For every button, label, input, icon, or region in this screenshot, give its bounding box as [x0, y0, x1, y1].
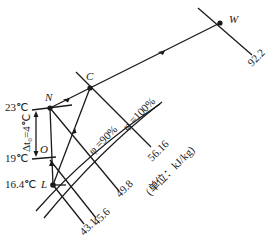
rh-label-90: φ =90%: [86, 123, 120, 157]
process-line-w-c: [90, 23, 220, 88]
point-w: [217, 20, 222, 25]
label-l: L: [40, 178, 47, 190]
process-line-c-l: [53, 88, 90, 185]
label-w: W: [229, 13, 239, 25]
temp-n: 23℃: [5, 101, 28, 113]
enthalpy-line-49-8: [50, 108, 119, 191]
process-line-l-n: [50, 108, 53, 185]
point-n: [47, 105, 52, 110]
psychrometric-diagram: W C N O L 23℃ 19℃ 16.4℃ Δt₀=4℃ 92.2 56.1…: [0, 0, 274, 243]
point-l: [50, 182, 56, 188]
arrow-down-icon: [34, 151, 39, 157]
rh-curve-100: [44, 102, 162, 218]
enthalpy-49-8: 49.8: [113, 177, 135, 199]
temp-o: 19℃: [5, 152, 28, 164]
label-o: O: [40, 143, 48, 155]
point-c: [87, 85, 92, 90]
enthalpy-line-43-1: [53, 185, 84, 224]
temp-l: 16.4℃: [5, 178, 36, 190]
rh-label-100: φ =100%: [120, 95, 157, 132]
delta-t-label: Δt₀=4℃: [20, 114, 32, 152]
label-n: N: [44, 91, 53, 103]
enthalpy-56-16: 56.16: [145, 137, 171, 163]
label-c: C: [86, 70, 94, 82]
arrow-up-icon: [34, 111, 39, 117]
enthalpy-92-2: 92.2: [245, 46, 267, 68]
arrow-icon: [49, 160, 54, 166]
enthalpy-line-92-2: [198, 8, 252, 55]
